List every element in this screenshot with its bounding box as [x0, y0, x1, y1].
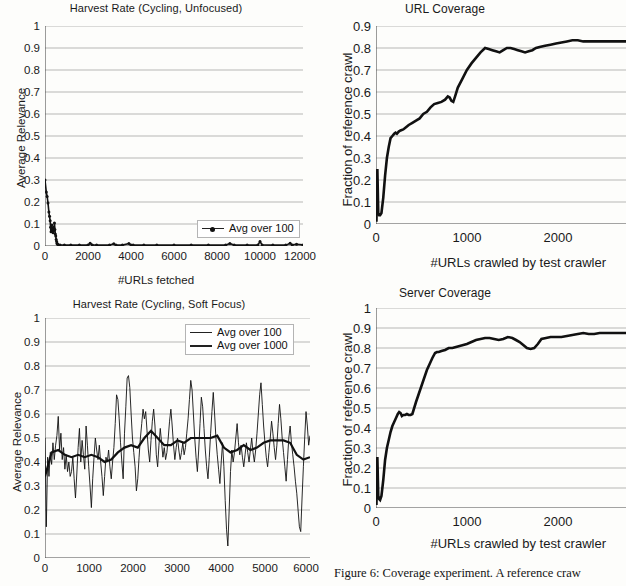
y-tick: 0.6 [333, 381, 371, 396]
chart-title: Harvest Rate (Cycling, Unfocused) [0, 2, 312, 14]
chart-harvest-rate-soft-focus: Harvest Rate (Cycling, Soft Focus) Avera… [0, 296, 318, 586]
y-tick: 0.3 [2, 480, 40, 492]
y-tick: 0.4 [2, 152, 40, 164]
y-tick: 0 [333, 501, 371, 516]
y-tick: 1 [333, 301, 371, 316]
x-tick: 6000 [293, 562, 319, 574]
legend-entry: Avg over 100 [202, 222, 294, 235]
y-tick: 0.9 [2, 336, 40, 348]
y-tick: 1 [2, 20, 40, 32]
y-tick: 0 [333, 217, 371, 232]
y-tick: 0.9 [333, 321, 371, 336]
x-axis-label: #URLs crawled by test crawler [320, 536, 608, 551]
x-tick: 4000 [118, 250, 144, 262]
y-tick: 0.9 [333, 19, 371, 34]
y-tick: 0.6 [2, 108, 40, 120]
y-tick: 0.7 [2, 86, 40, 98]
x-tick: 4000 [208, 562, 234, 574]
chart-title: Harvest Rate (Cycling, Soft Focus) [0, 298, 318, 310]
y-tick: 0.2 [2, 504, 40, 516]
y-tick: 0.4 [333, 129, 371, 144]
plot-svg [45, 26, 303, 246]
chart-harvest-rate-unfocused: Harvest Rate (Cycling, Unfocused) Averag… [0, 0, 312, 292]
data-series-line [376, 333, 626, 505]
y-tick: 0.8 [2, 360, 40, 372]
figure-caption: Figure 6: Coverage experiment. A referen… [334, 566, 581, 581]
plot-area [376, 26, 626, 224]
legend-line-icon [190, 332, 212, 333]
y-tick: 0 [2, 240, 40, 252]
chart-legend: Avg over 100 [197, 220, 300, 238]
x-tick: 0 [372, 514, 379, 529]
x-tick: 2000 [544, 230, 573, 245]
y-tick: 0 [2, 552, 40, 564]
x-tick: 8000 [204, 250, 230, 262]
x-tick: 1000 [76, 562, 102, 574]
data-series-line [376, 40, 626, 222]
x-tick: 6000 [161, 250, 187, 262]
y-tick: 0.7 [333, 361, 371, 376]
plot-svg [376, 308, 626, 508]
x-tick: 10000 [244, 250, 276, 262]
legend-entry: Avg over 1000 [190, 339, 288, 352]
y-tick: 0.1 [333, 195, 371, 210]
x-tick: 2000 [544, 514, 573, 529]
data-series-line-avg100 [45, 376, 310, 546]
y-tick: 0.2 [333, 461, 371, 476]
plot-area [376, 308, 626, 508]
y-tick: 0.4 [2, 456, 40, 468]
gridlines [45, 26, 303, 224]
y-tick: 0.1 [2, 528, 40, 540]
x-tick: 0 [42, 250, 48, 262]
y-tick: 0.5 [333, 107, 371, 122]
legend-label: Avg over 1000 [217, 339, 288, 352]
chart-server-coverage: Server Coverage Fraction of reference cr… [320, 286, 606, 550]
legend-entry: Avg over 100 [190, 326, 288, 339]
chart-url-coverage: URL Coverage Fraction of reference crawl… [320, 0, 606, 284]
x-tick: 0 [42, 562, 48, 574]
y-tick: 0.8 [333, 341, 371, 356]
y-tick: 0.2 [333, 173, 371, 188]
y-tick: 1 [2, 312, 40, 324]
x-tick: 12000 [284, 250, 316, 262]
chart-legend: Avg over 100 Avg over 1000 [185, 324, 294, 355]
x-tick: 0 [372, 230, 379, 245]
chart-title: Server Coverage [320, 286, 570, 300]
y-tick: 0.8 [333, 41, 371, 56]
x-tick: 2000 [75, 250, 101, 262]
x-tick: 5000 [252, 562, 278, 574]
x-axis-label: #URLs fetched [0, 274, 312, 286]
y-tick: 0.6 [2, 408, 40, 420]
x-axis-label: #URLs crawled by test crawler [320, 255, 608, 270]
y-tick: 0.1 [2, 218, 40, 230]
x-tick: 1000 [453, 230, 482, 245]
y-tick: 0.7 [333, 63, 371, 78]
y-tick: 0.5 [333, 401, 371, 416]
legend-line-icon [202, 228, 224, 229]
y-tick: 0.5 [2, 432, 40, 444]
y-tick: 0.1 [333, 481, 371, 496]
chart-title: URL Coverage [320, 2, 570, 16]
x-tick: 3000 [164, 562, 190, 574]
y-tick: 0.3 [2, 174, 40, 186]
legend-line-icon [190, 345, 212, 347]
y-tick: 0.4 [333, 421, 371, 436]
plot-area [45, 26, 303, 246]
y-tick: 0.9 [2, 42, 40, 54]
y-tick: 0.5 [2, 130, 40, 142]
y-tick: 0.3 [333, 441, 371, 456]
y-tick: 0.6 [333, 85, 371, 100]
y-tick: 0.8 [2, 64, 40, 76]
x-tick: 2000 [120, 562, 146, 574]
plot-svg [376, 26, 626, 224]
y-tick: 0.2 [2, 196, 40, 208]
y-tick: 0.3 [333, 151, 371, 166]
legend-label: Avg over 100 [217, 326, 282, 339]
x-tick: 1000 [453, 514, 482, 529]
legend-label: Avg over 100 [229, 222, 294, 235]
y-tick: 0.7 [2, 384, 40, 396]
